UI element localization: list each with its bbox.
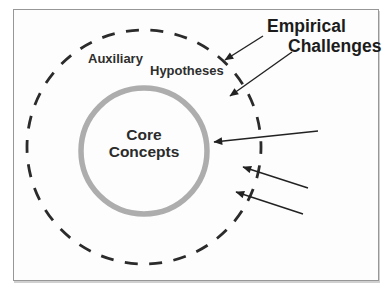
empirical-challenge-arrow-2	[230, 52, 292, 96]
core-concepts-label-line2: Concepts	[94, 144, 194, 161]
empirical-challenge-arrow-4	[243, 167, 308, 188]
empirical-challenge-arrow-1	[225, 36, 263, 60]
empirical-challenges-label-line2: Challenges	[288, 38, 381, 56]
core-concepts-label: Core Concepts	[94, 127, 194, 160]
auxiliary-label: Auxiliary	[88, 52, 143, 65]
hypotheses-label: Hypotheses	[150, 64, 224, 77]
empirical-challenge-arrow-5	[236, 192, 303, 214]
core-concepts-label-line1: Core	[94, 127, 194, 144]
empirical-challenges-label-line1: Empirical	[267, 18, 346, 36]
empirical-challenge-arrow-3	[214, 131, 318, 142]
